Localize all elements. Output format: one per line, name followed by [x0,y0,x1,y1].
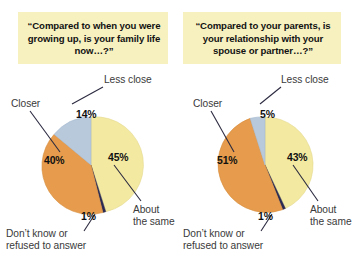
label-dont-know-line2: refused to answer [183,240,263,251]
value-less-close: 5% [260,109,275,120]
label-dont-know-line1: Don’t know or [6,228,68,239]
label-dont-know-line1: Don’t know or [183,228,245,239]
label-about-the-same-line2: the same [133,216,175,227]
label-dont-know: Don’t know or refused to answer [183,228,263,252]
label-dont-know-line2: refused to answer [6,240,86,251]
label-about-the-same: About the same [310,204,352,228]
pie-chart-spouse-partner: Less close Closer About the same Don’t k… [177,0,354,261]
chart-panel-spouse-partner: “Compared to your parents, is your relat… [177,0,354,261]
chart-panel-family-life: “Compared to when you were growing up, i… [0,0,177,261]
label-about-the-same-line2: the same [310,216,352,227]
leader-line-less-close [72,87,103,104]
label-less-close: Less close [281,74,329,86]
value-less-close: 14% [76,109,97,120]
label-less-close: Less close [104,74,152,86]
leader-line-closer [30,111,60,152]
value-about-the-same: 43% [287,152,308,163]
value-dont-know: 1% [258,211,273,222]
label-about-the-same-line1: About [133,204,159,215]
leader-line-less-close [260,87,281,104]
label-closer: Closer [193,98,222,110]
pie-chart-family-life: Less close Closer About the same Don’t k… [0,0,177,261]
two-pie-chart-figure: “Compared to when you were growing up, i… [0,0,354,261]
value-closer: 40% [44,155,65,166]
value-about-the-same: 45% [108,152,129,163]
label-about-the-same-line1: About [310,204,336,215]
label-closer: Closer [11,98,40,110]
label-about-the-same: About the same [133,204,175,228]
value-dont-know: 1% [81,211,96,222]
value-closer: 51% [217,155,238,166]
label-dont-know: Don’t know or refused to answer [6,228,86,252]
